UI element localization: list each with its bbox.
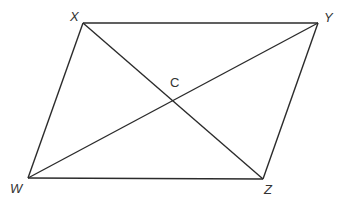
side-zw: [28, 178, 263, 179]
vertex-label-y: Y: [324, 10, 334, 25]
vertex-label-z: Z: [263, 182, 273, 197]
vertex-label-w: W: [10, 181, 24, 196]
intersection-label-c: C: [170, 75, 179, 90]
parallelogram-diagram: X Y Z W C: [0, 0, 341, 205]
vertex-label-x: X: [69, 9, 80, 24]
side-wx: [28, 23, 83, 178]
diagonal-wy: [28, 23, 318, 178]
side-yz: [263, 23, 318, 179]
